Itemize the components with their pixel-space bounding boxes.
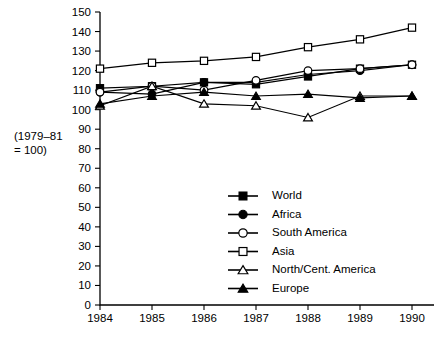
x-tick-label: 1987 (243, 312, 269, 324)
y-tick-label: 80 (78, 143, 91, 155)
marker-open-square (96, 65, 103, 72)
chart-series-group (96, 24, 417, 121)
legend-item-label: Africa (272, 208, 302, 220)
y-tick-label: 30 (78, 240, 91, 252)
y-axis-caption-line1: (1979–81 (14, 130, 63, 142)
marker-open-square (239, 248, 247, 256)
y-tick-label: 90 (78, 123, 91, 135)
y-tick-label: 0 (85, 299, 91, 311)
marker-open-circle (304, 67, 312, 75)
marker-open-square (408, 24, 415, 31)
chart-canvas: 0102030405060708090100110120130140150 19… (0, 0, 435, 337)
x-tick-label: 1985 (139, 312, 165, 324)
y-tick-label: 40 (78, 221, 91, 233)
x-axis-tick-labels: 1984198519861987198819891990 (87, 312, 425, 324)
x-tick-label: 1986 (191, 312, 217, 324)
legend-item-label: Asia (272, 245, 295, 257)
marker-open-square (356, 36, 363, 43)
x-tick-label: 1984 (87, 312, 113, 324)
marker-open-square (304, 44, 311, 51)
y-tick-label: 150 (72, 6, 91, 18)
legend-item-label: North/Cent. America (272, 263, 376, 275)
marker-open-circle (252, 77, 260, 85)
legend-item-africa[interactable]: Africa (228, 208, 302, 220)
x-tick-label: 1990 (399, 312, 425, 324)
legend-item-world[interactable]: World (228, 189, 302, 201)
marker-filled-circle (200, 79, 208, 87)
legend-item-label: South America (272, 226, 347, 238)
chart-axes (95, 12, 434, 310)
y-tick-label: 140 (72, 26, 91, 38)
y-axis-caption: (1979–81 = 100) (14, 130, 63, 156)
y-tick-label: 130 (72, 45, 91, 57)
marker-open-circle (239, 229, 247, 237)
y-tick-label: 70 (78, 162, 91, 174)
y-axis-caption-line2: = 100) (14, 144, 47, 156)
series-line (100, 28, 412, 69)
legend-item-south-america[interactable]: South America (228, 226, 347, 238)
marker-open-circle (356, 65, 364, 73)
marker-open-circle (96, 88, 104, 96)
y-tick-label: 20 (78, 260, 91, 272)
chart-legend: WorldAfricaSouth AmericaAsiaNorth/Cent. … (228, 189, 376, 294)
y-axis-tick-labels: 0102030405060708090100110120130140150 (72, 6, 91, 311)
legend-item-north-cent-america[interactable]: North/Cent. America (228, 263, 376, 275)
marker-open-circle (408, 61, 416, 69)
legend-item-label: World (272, 189, 302, 201)
legend-item-asia[interactable]: Asia (228, 245, 295, 257)
legend-item-europe[interactable]: Europe (228, 282, 309, 294)
marker-filled-square (239, 192, 247, 200)
marker-open-square (200, 57, 207, 64)
marker-open-square (252, 53, 259, 60)
y-tick-label: 50 (78, 201, 91, 213)
x-tick-label: 1988 (295, 312, 321, 324)
y-tick-label: 60 (78, 182, 91, 194)
y-tick-label: 10 (78, 279, 91, 291)
y-tick-label: 110 (73, 84, 91, 96)
series-south-america (96, 61, 416, 96)
marker-open-square (148, 59, 155, 66)
series-asia (96, 24, 415, 72)
y-tick-label: 100 (72, 104, 91, 116)
axis-lines (100, 12, 434, 305)
legend-item-label: Europe (272, 282, 309, 294)
index-line-chart: 0102030405060708090100110120130140150 19… (0, 0, 435, 337)
x-tick-label: 1989 (347, 312, 373, 324)
marker-filled-circle (239, 210, 247, 218)
y-tick-label: 120 (72, 65, 91, 77)
